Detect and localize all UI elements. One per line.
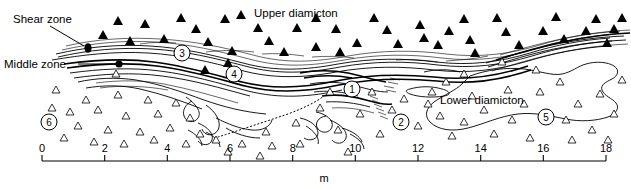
axis-tick-10: 10 [349,142,361,154]
axis-tick-4: 4 [164,142,170,154]
deformed-core [188,71,400,149]
marker-4: 4 [226,66,242,82]
label-shear-zone: Shear zone [13,13,72,25]
marker-5-label: 5 [543,112,549,123]
marker-2-label: 2 [398,117,404,128]
inferred-boundary-dotted [218,96,324,137]
marker-6-label: 6 [46,117,52,128]
laminated-beds [52,31,620,138]
axis-unit-label: m [319,172,328,184]
axis-tick-0: 0 [39,142,45,154]
axis-tick-18: 18 [600,142,612,154]
axis-tick-16: 16 [537,142,549,154]
marker-4-label: 4 [231,69,237,80]
label-lower-diamicton: Lower diamicton [440,94,524,106]
axis-tick-2: 2 [102,142,108,154]
axis-tick-14: 14 [475,142,487,154]
marker-5: 5 [538,109,554,125]
label-middle-zone: Middle zone [4,58,66,70]
marker-3: 3 [174,45,190,61]
marker-1: 1 [344,81,360,97]
marker-1-label: 1 [349,84,355,95]
axis-tick-12: 12 [412,142,424,154]
axis-tick-6: 6 [227,142,233,154]
label-upper-diamicton: Upper diamicton [254,7,338,19]
marker-3-label: 3 [179,48,185,59]
cross-section-figure: Shear zone Middle zone Upper diamicton L… [0,0,631,189]
axis-tick-8: 8 [290,142,296,154]
scale-axis: 0 2 4 6 8 10 12 14 16 18 m [39,142,612,184]
marker-2: 2 [393,114,409,130]
marker-6: 6 [41,114,57,130]
